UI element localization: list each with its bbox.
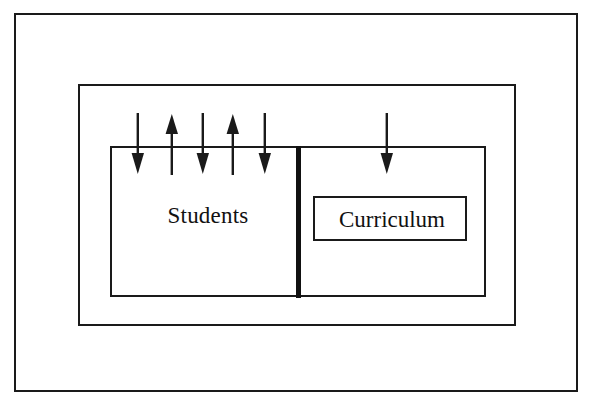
arrow-down-icon-glyph	[127, 113, 149, 175]
diagram-canvas: Students Curriculum	[0, 0, 593, 404]
arrow-up-icon-glyph	[161, 113, 183, 175]
arrow-down-icon	[376, 113, 398, 175]
students-region-label: Students	[152, 203, 264, 229]
arrow-down-icon-glyph	[192, 113, 214, 175]
arrow-up-icon-glyph	[222, 113, 244, 175]
arrow-up-icon	[161, 113, 183, 175]
students-curriculum-divider	[296, 146, 301, 298]
arrow-down-icon	[192, 113, 214, 175]
curriculum-region-label: Curriculum	[315, 207, 469, 233]
arrow-up-icon	[222, 113, 244, 175]
arrow-down-icon	[127, 113, 149, 175]
arrow-down-icon	[254, 113, 276, 175]
arrow-down-icon-glyph	[254, 113, 276, 175]
curriculum-box: Curriculum	[313, 196, 467, 241]
arrow-down-icon-glyph	[376, 113, 398, 175]
